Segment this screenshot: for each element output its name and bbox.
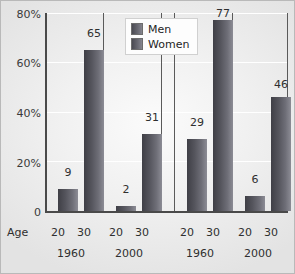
bar-chart: 80% 60% 40% 20% 0 9 65 2 31 29 77 (0, 0, 295, 274)
y-axis-tick-40: 40% (1, 107, 41, 120)
legend-item-women: Women (131, 38, 189, 50)
bar-value-men-2000-age20: 2 (111, 184, 141, 195)
bar-value-women-2000-age20: 6 (240, 174, 270, 185)
x-group-men-2000: 2000 (114, 248, 144, 259)
bar-value-women-1960-age30: 77 (208, 8, 238, 19)
bar-value-men-1960-age30: 65 (79, 28, 109, 39)
x-group-women-1960: 1960 (185, 248, 215, 259)
x-group-men-1960: 1960 (56, 248, 86, 259)
legend: Men Women (125, 18, 198, 55)
x-axis-line (45, 211, 288, 213)
legend-label-women: Women (148, 39, 189, 50)
bar-men-1960-age30 (84, 50, 104, 211)
y-axis-tick-0: 0 (1, 206, 41, 219)
bar-men-2000-age30 (142, 134, 162, 211)
bar-men-1960-age20 (58, 189, 78, 211)
legend-item-men: Men (131, 23, 189, 35)
bar-women-2000-age30 (271, 97, 291, 211)
gridline-20 (45, 161, 287, 162)
x-axis-age-caption: Age (7, 227, 28, 238)
bar-women-1960-age20 (187, 139, 207, 211)
bar-value-men-1960-age20: 9 (53, 167, 83, 178)
x-group-women-2000: 2000 (243, 248, 273, 259)
legend-label-men: Men (148, 24, 171, 35)
gridline-80 (45, 13, 287, 14)
bar-value-men-2000-age30: 31 (137, 112, 167, 123)
x-tick-men-1960-30: 30 (69, 227, 99, 238)
x-tick-women-2000-30: 30 (256, 227, 286, 238)
bar-women-1960-age30 (213, 20, 233, 211)
y-axis-tick-20: 20% (1, 157, 41, 170)
legend-swatch-men-icon (131, 23, 143, 35)
bar-women-2000-age20 (245, 196, 265, 211)
legend-swatch-women-icon (131, 38, 143, 50)
y-axis-tick-60: 60% (1, 57, 41, 70)
y-axis-line (45, 13, 47, 212)
y-axis-tick-80: 80% (1, 8, 41, 21)
bar-value-women-1960-age20: 29 (182, 117, 212, 128)
bar-value-women-2000-age30: 46 (266, 79, 295, 90)
x-tick-women-1960-30: 30 (198, 227, 228, 238)
x-tick-men-2000-30: 30 (127, 227, 157, 238)
gridline-60 (45, 62, 287, 63)
